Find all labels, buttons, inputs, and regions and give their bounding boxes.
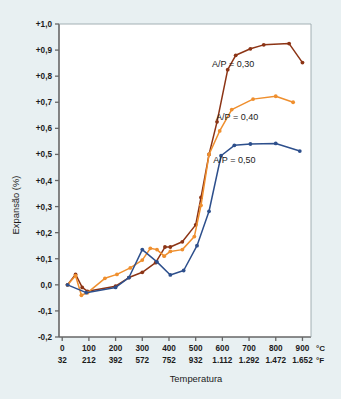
series-marker (168, 245, 172, 249)
x-tick-label-celsius: 400 (162, 344, 176, 353)
x-tick-label-celsius: 800 (269, 344, 283, 353)
x-tick-label-fahrenheit: 932 (189, 356, 203, 365)
series-marker (234, 53, 238, 57)
series-label-2: A/P = 0,40 (216, 112, 258, 122)
series-marker (163, 245, 167, 249)
series-marker (232, 143, 236, 147)
series-marker (274, 142, 278, 146)
series-marker (274, 94, 278, 98)
series-marker (127, 276, 131, 280)
series-marker (195, 244, 199, 248)
x-tick-label-celsius: 700 (242, 344, 256, 353)
series-marker (84, 291, 88, 295)
series-marker (207, 209, 211, 213)
x-tick-label-celsius: 100 (82, 344, 96, 353)
series-marker (140, 248, 144, 252)
series-marker (140, 270, 144, 274)
series-marker (192, 235, 196, 239)
x-tick-label-fahrenheit: 1.652 (292, 356, 313, 365)
x-tick-label-celsius: 200 (109, 344, 123, 353)
series-marker (155, 248, 159, 252)
y-tick-label: -0,1 (38, 307, 53, 316)
series-marker (207, 153, 211, 157)
y-tick-label: +0,1 (36, 255, 53, 264)
series-label-3: A/P = 0,50 (213, 155, 255, 165)
fahrenheit-unit-label: °F (316, 356, 324, 365)
chart-figure: +1,0+0,9+0,8+0,7+0,6+0,5+0,4+0,3+0,2+0,1… (0, 0, 341, 399)
series-marker (148, 246, 152, 250)
series-marker (180, 240, 184, 244)
series-marker (80, 286, 84, 290)
y-tick-label: +0,4 (36, 177, 53, 186)
y-tick-label: +0,2 (36, 229, 53, 238)
series-marker (103, 276, 107, 280)
y-tick-label: -0,2 (38, 333, 53, 342)
y-tick-label: +0,8 (36, 72, 53, 81)
series-marker (262, 43, 266, 47)
series-marker (162, 254, 166, 258)
x-tick-label-fahrenheit: 1.472 (266, 356, 287, 365)
x-tick-label-celsius: 500 (189, 344, 203, 353)
series-marker (291, 100, 295, 104)
x-tick-label-fahrenheit: 1.112 (212, 356, 232, 365)
series-marker (80, 293, 84, 297)
series-marker (168, 273, 172, 277)
series-marker (128, 266, 132, 270)
series-marker (182, 269, 186, 273)
series-marker (114, 286, 118, 290)
expansion-temperature-line-chart: +1,0+0,9+0,8+0,7+0,6+0,5+0,4+0,3+0,2+0,1… (0, 0, 341, 399)
x-tick-label-fahrenheit: 392 (109, 356, 123, 365)
series-marker (301, 61, 305, 65)
series-marker (287, 42, 291, 46)
y-tick-label: +0,6 (36, 124, 53, 133)
y-tick-label: 0,0 (41, 281, 53, 290)
series-marker (140, 258, 144, 262)
x-tick-label-celsius: 0 (60, 344, 65, 353)
x-tick-label-fahrenheit: 32 (58, 356, 68, 365)
series-marker (251, 97, 255, 101)
y-axis-title: Expansão (%) (10, 176, 21, 235)
series-label-1: A/P = 0,30 (212, 59, 254, 69)
x-tick-label-fahrenheit: 1.292 (239, 356, 260, 365)
series-marker (180, 248, 184, 252)
x-tick-label-fahrenheit: 752 (162, 356, 176, 365)
series-marker (155, 260, 159, 264)
x-tick-label-celsius: 600 (216, 344, 230, 353)
x-tick-label-celsius: 900 (296, 344, 310, 353)
x-tick-label-fahrenheit: 572 (135, 356, 149, 365)
x-tick-label-fahrenheit: 212 (82, 356, 96, 365)
y-tick-label: +0,5 (36, 150, 53, 159)
x-axis-title: Temperatura (170, 373, 223, 384)
celsius-unit-label: °C (316, 344, 325, 353)
y-tick-label: +0,7 (36, 98, 53, 107)
y-tick-label: +0,9 (36, 46, 53, 55)
series-marker (249, 47, 253, 51)
series-marker (115, 273, 119, 277)
y-tick-label: +0,3 (36, 203, 53, 212)
series-marker (218, 129, 222, 133)
series-marker (199, 203, 203, 207)
series-marker (66, 283, 70, 287)
x-tick-label-celsius: 300 (135, 344, 149, 353)
series-marker (74, 274, 78, 278)
series-marker (298, 149, 302, 153)
series-marker (168, 250, 172, 254)
y-tick-label: +1,0 (36, 20, 53, 29)
series-marker (249, 142, 253, 146)
